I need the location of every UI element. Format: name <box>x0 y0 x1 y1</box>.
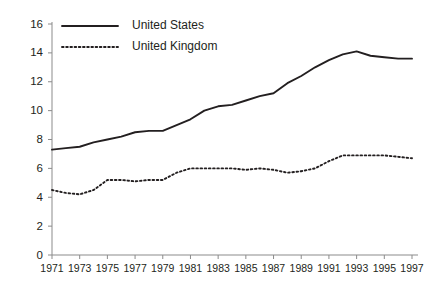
x-axis-label: 1995 <box>373 262 397 274</box>
y-axis-label: 14 <box>30 46 43 58</box>
x-axis-label: 1981 <box>179 262 203 274</box>
series-line-2 <box>52 155 412 194</box>
y-axis-label: 6 <box>37 162 43 174</box>
legend-label-2: United Kingdom <box>132 39 217 53</box>
x-axis-label: 1997 <box>400 262 424 274</box>
x-axis-label: 1977 <box>123 262 147 274</box>
y-axis-label: 2 <box>37 220 43 232</box>
x-axis-label: 1989 <box>290 262 314 274</box>
x-axis-label: 1993 <box>345 262 369 274</box>
legend-label-1: United States <box>132 18 204 32</box>
x-axis-label: 1973 <box>68 262 92 274</box>
line-chart: 0246810121416197119731975197719791981198… <box>0 0 429 291</box>
x-axis-label: 1985 <box>234 262 258 274</box>
x-axis-label: 1979 <box>151 262 175 274</box>
x-axis-label: 1983 <box>206 262 230 274</box>
y-axis-label: 16 <box>30 18 43 30</box>
x-axis-label: 1991 <box>317 262 341 274</box>
y-axis-label: 12 <box>30 75 43 87</box>
x-axis-label: 1975 <box>96 262 120 274</box>
chart-canvas: 0246810121416197119731975197719791981198… <box>0 0 429 291</box>
y-axis-label: 4 <box>37 191 44 203</box>
x-axis-label: 1987 <box>262 262 286 274</box>
x-axis-label: 1971 <box>40 262 64 274</box>
series-line-1 <box>52 51 412 149</box>
y-axis-label: 0 <box>37 249 43 261</box>
y-axis-label: 10 <box>30 104 43 116</box>
y-axis-label: 8 <box>37 133 43 145</box>
